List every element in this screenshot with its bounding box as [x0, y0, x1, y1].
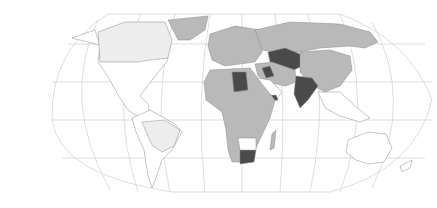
region-south-africa [240, 150, 256, 164]
region-canada [98, 22, 172, 62]
region-europe [208, 26, 262, 66]
region-southern-africa-white [238, 138, 256, 150]
region-new-zealand [400, 160, 412, 172]
region-libya [232, 72, 248, 92]
world-map [0, 0, 437, 208]
